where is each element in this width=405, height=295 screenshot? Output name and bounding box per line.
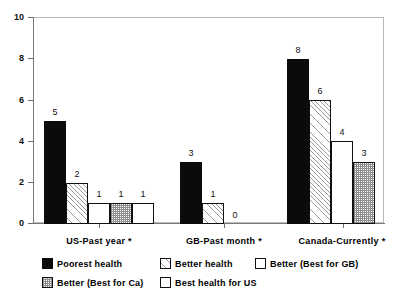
bar-better-best-for-ca-us — [110, 203, 132, 224]
bar-better-health-us — [66, 183, 88, 224]
legend-swatch-open-icon — [255, 258, 266, 269]
legend-item-poorest-health: Poorest health — [42, 258, 122, 269]
legend-item-best-health-for-us: Best health for US — [160, 277, 257, 288]
legend-label-poorest-health: Poorest health — [57, 259, 122, 269]
bar-best-health-for-us-us — [132, 203, 154, 224]
y-tick-mark-0 — [28, 223, 34, 224]
bar-better-health-gb — [202, 203, 224, 224]
bar-better-best-for-ca-canada — [353, 162, 375, 224]
x-tick-gb-past-month — [224, 224, 225, 228]
bar-value-gb-3: 0 — [224, 211, 246, 220]
y-tick-label-6: 6 — [0, 96, 24, 105]
x-tick-canada-currently — [343, 224, 344, 228]
y-tick-mark-4 — [28, 141, 34, 142]
bar-poorest-health-us — [44, 121, 66, 224]
bar-chart: 10 8 6 4 2 0 5 2 1 1 1 US-Past year * 3 … — [0, 0, 405, 250]
x-tick-us-past-year — [99, 224, 100, 228]
y-tick-label-0: 0 — [0, 219, 24, 228]
x-axis-label-us-past-year: US-Past year * — [39, 236, 159, 246]
bar-value-us-3: 1 — [88, 190, 110, 199]
bar-better-best-for-gb-canada — [331, 141, 353, 224]
bar-better-best-for-gb-us — [88, 203, 110, 224]
legend-label-best-health-for-us: Best health for US — [175, 278, 257, 288]
y-tick-label-10: 10 — [0, 13, 24, 22]
legend-item-better-best-for-ca: Better (Best for Ca) — [42, 277, 144, 288]
legend-swatch-diagonal-hatch-icon — [160, 258, 171, 269]
y-tick-mark-2 — [28, 182, 34, 183]
y-tick-label-8: 8 — [0, 54, 24, 63]
legend-label-better-best-for-ca: Better (Best for Ca) — [57, 278, 144, 288]
bar-value-us-1: 5 — [44, 108, 66, 117]
y-tick-mark-10 — [28, 17, 34, 18]
legend-label-better-best-for-gb: Better (Best for GB) — [270, 259, 359, 269]
x-axis-label-gb-past-month: GB-Past month * — [164, 236, 284, 246]
legend-swatch-solid-icon — [42, 258, 53, 269]
y-tick-label-2: 2 — [0, 178, 24, 187]
bar-poorest-health-canada — [287, 59, 309, 224]
bar-value-canada-1: 8 — [287, 46, 309, 55]
chart-legend: Poorest health Better health Better (Bes… — [0, 255, 405, 295]
legend-swatch-checker-icon — [42, 277, 53, 288]
bar-value-canada-2: 6 — [309, 87, 331, 96]
y-tick-label-4: 4 — [0, 137, 24, 146]
legend-item-better-best-for-gb: Better (Best for GB) — [255, 258, 359, 269]
bar-value-canada-3: 4 — [331, 128, 353, 137]
bar-value-gb-1: 3 — [180, 149, 202, 158]
legend-swatch-open-2-icon — [160, 277, 171, 288]
legend-label-better-health: Better health — [175, 259, 233, 269]
legend-item-better-health: Better health — [160, 258, 233, 269]
y-tick-mark-6 — [28, 100, 34, 101]
x-axis-label-canada-currently: Canada-Currently * — [277, 236, 405, 246]
y-tick-mark-8 — [28, 58, 34, 59]
bar-better-health-canada — [309, 100, 331, 224]
bar-poorest-health-gb — [180, 162, 202, 224]
bar-value-us-2: 2 — [66, 170, 88, 179]
bar-value-canada-4: 3 — [353, 149, 375, 158]
bar-value-gb-2: 1 — [202, 190, 224, 199]
bar-value-us-5: 1 — [132, 190, 154, 199]
y-axis-line — [33, 17, 34, 224]
bar-value-us-4: 1 — [110, 190, 132, 199]
